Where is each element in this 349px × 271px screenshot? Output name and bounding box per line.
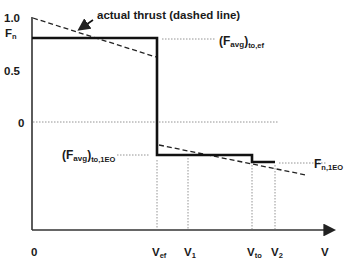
x-origin-label: 0	[31, 246, 37, 258]
thrust-diagram: actual thrust (dashed line) 1.0 Fn 0.5 0…	[0, 0, 349, 271]
favg-to-ef-label: (Favg)to,ef	[219, 34, 264, 50]
average-thrust-step-line	[32, 38, 275, 162]
x-label-v2: V2	[271, 246, 283, 260]
y-axis-label: Fn	[5, 27, 17, 41]
y-tick-0-5: 0.5	[4, 65, 21, 77]
x-label-vto: Vto	[247, 246, 262, 260]
actual-thrust-dashed-one-engine-out	[159, 145, 306, 175]
x-label-v1: V1	[184, 246, 196, 260]
y-tick-1-0: 1.0	[4, 12, 20, 24]
y-tick-0: 0	[18, 117, 24, 129]
x-axis-label: V	[321, 246, 329, 258]
x-label-vef: Vef	[152, 246, 167, 260]
favg-to-1eo-label: (Favg)to,1EO	[62, 148, 115, 164]
fn-1eo-label: Fn,1EO	[314, 157, 343, 172]
actual-thrust-annotation: actual thrust (dashed line)	[97, 9, 240, 21]
annotation-arrow-icon	[80, 20, 93, 29]
